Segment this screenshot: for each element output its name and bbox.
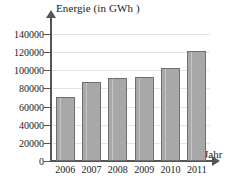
y-axis-tick [44, 34, 52, 35]
y-axis-tick-label: 80000 [19, 83, 44, 94]
bar [161, 68, 180, 161]
x-axis-tick-label: 2010 [161, 164, 181, 175]
y-axis-tick [44, 125, 52, 126]
bar [135, 77, 154, 161]
y-axis-tick [44, 88, 52, 89]
x-axis-tick-label: 2011 [187, 164, 207, 175]
y-axis-tick [44, 161, 52, 162]
bar-series [52, 20, 210, 161]
y-axis-tick-label: 140000 [14, 29, 44, 40]
x-axis-tick-label: 2007 [82, 164, 102, 175]
x-axis-tick-label: 2006 [55, 164, 75, 175]
y-axis-tick-label: 20000 [19, 137, 44, 148]
y-axis-tick-label: 120000 [14, 47, 44, 58]
y-axis-title: Energie (in GWh ) [56, 2, 140, 14]
y-axis-tick-label: 0 [39, 156, 44, 167]
y-axis-arrow-icon [46, 10, 56, 18]
y-axis-tick-label: 100000 [14, 65, 44, 76]
y-axis-tick [44, 52, 52, 53]
bar [56, 97, 75, 161]
y-axis-tick [44, 70, 52, 71]
bar [108, 78, 127, 161]
x-axis-arrow-icon [212, 156, 220, 166]
y-axis-tick [44, 143, 52, 144]
y-axis-tick-label: 40000 [19, 119, 44, 130]
bar-chart: Energie (in GWh ) Jahr 02000040000600008… [0, 0, 234, 186]
y-axis-tick-label: 60000 [19, 101, 44, 112]
bar [187, 51, 206, 161]
x-axis-tick-label: 2008 [108, 164, 128, 175]
y-axis-tick [44, 107, 52, 108]
x-axis-tick-label: 2009 [134, 164, 154, 175]
bar [82, 82, 101, 161]
